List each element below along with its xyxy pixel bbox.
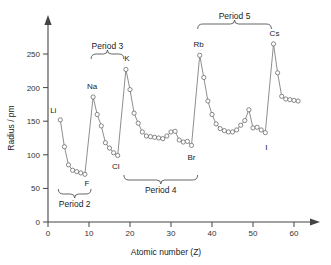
x-tick-label-10: 10 bbox=[85, 229, 94, 238]
data-point bbox=[173, 129, 177, 133]
data-point bbox=[243, 118, 247, 122]
x-tick-label-20: 20 bbox=[126, 229, 135, 238]
element-label-k: K bbox=[124, 54, 130, 63]
data-point bbox=[66, 163, 70, 167]
chart-svg: 0 50 100 150 200 250 0 10 20 30 40 50 60 bbox=[0, 0, 331, 265]
period-label-period-4: Period 4 bbox=[145, 185, 177, 195]
y-tick-labels: 0 50 100 150 200 250 bbox=[27, 50, 41, 227]
data-point bbox=[124, 67, 128, 71]
data-point bbox=[140, 130, 144, 134]
data-point bbox=[271, 42, 275, 46]
data-point bbox=[210, 112, 214, 116]
data-point bbox=[128, 88, 132, 92]
data-point bbox=[83, 172, 87, 176]
data-point bbox=[288, 98, 292, 102]
y-tick-label-0: 0 bbox=[36, 218, 41, 227]
data-point bbox=[165, 134, 169, 138]
y-tick-label-250: 250 bbox=[27, 50, 41, 59]
data-point bbox=[202, 75, 206, 79]
x-tick-label-0: 0 bbox=[46, 229, 51, 238]
x-tick-label-60: 60 bbox=[290, 229, 299, 238]
data-point bbox=[103, 141, 107, 145]
data-point bbox=[71, 168, 75, 172]
data-point bbox=[222, 129, 226, 133]
data-point bbox=[99, 124, 103, 128]
data-point bbox=[185, 139, 189, 143]
x-axis-arrowhead bbox=[310, 218, 320, 225]
data-point-markers bbox=[58, 42, 300, 177]
x-tick-labels: 0 10 20 30 40 50 60 bbox=[46, 229, 299, 238]
element-label-f: F bbox=[84, 179, 89, 188]
period-bracket bbox=[58, 189, 91, 198]
y-tick-label-100: 100 bbox=[27, 151, 41, 160]
y-axis-arrowhead bbox=[44, 15, 51, 25]
data-point bbox=[247, 108, 251, 112]
data-point bbox=[116, 153, 120, 157]
y-tick-marks bbox=[43, 54, 48, 222]
data-point bbox=[226, 130, 230, 134]
period-label-period-5: Period 5 bbox=[219, 11, 251, 21]
data-point bbox=[79, 171, 83, 175]
data-point bbox=[280, 94, 284, 98]
data-point bbox=[95, 112, 99, 116]
data-point bbox=[107, 146, 111, 150]
data-point bbox=[153, 135, 157, 139]
atomic-radius-chart: 0 50 100 150 200 250 0 10 20 30 40 50 60 bbox=[0, 0, 331, 265]
data-point bbox=[75, 170, 79, 174]
data-point bbox=[132, 111, 136, 115]
data-point bbox=[263, 131, 267, 135]
data-point bbox=[161, 137, 165, 141]
x-tick-marks bbox=[48, 222, 294, 227]
y-tick-label-200: 200 bbox=[27, 84, 41, 93]
period-label-period-3: Period 3 bbox=[92, 41, 124, 51]
element-label-i: I bbox=[265, 143, 267, 152]
element-label-cl: Cl bbox=[112, 162, 120, 171]
period-bracket bbox=[198, 20, 272, 29]
data-point bbox=[239, 123, 243, 127]
data-point bbox=[276, 71, 280, 75]
data-point bbox=[235, 128, 239, 132]
data-point bbox=[148, 135, 152, 139]
data-point bbox=[214, 122, 218, 126]
data-point bbox=[177, 138, 181, 142]
x-tick-label-40: 40 bbox=[208, 229, 217, 238]
data-point bbox=[251, 126, 255, 130]
element-point-labels: LiFNaClKBrRbICs bbox=[50, 29, 279, 188]
data-point bbox=[189, 143, 193, 147]
period-bracket-annotations: Period 2Period 3Period 4Period 5 bbox=[58, 11, 271, 209]
data-point bbox=[284, 97, 288, 101]
data-point bbox=[91, 95, 95, 99]
x-tick-label-50: 50 bbox=[249, 229, 258, 238]
data-point bbox=[112, 151, 116, 155]
data-point bbox=[157, 136, 161, 140]
element-label-cs: Cs bbox=[270, 29, 280, 38]
period-bracket bbox=[124, 175, 198, 184]
data-point bbox=[169, 130, 173, 134]
y-tick-label-50: 50 bbox=[31, 184, 40, 193]
element-label-na: Na bbox=[87, 82, 98, 91]
data-point bbox=[206, 99, 210, 103]
period-bracket bbox=[91, 50, 124, 59]
data-point bbox=[198, 53, 202, 57]
data-point bbox=[144, 134, 148, 138]
data-point bbox=[62, 145, 66, 149]
y-axis bbox=[44, 15, 51, 222]
data-point bbox=[292, 98, 296, 102]
x-axis-title: Atomic number (Z) bbox=[131, 247, 202, 257]
data-point bbox=[230, 130, 234, 134]
element-label-br: Br bbox=[188, 153, 196, 162]
data-point bbox=[255, 125, 259, 129]
element-label-rb: Rb bbox=[194, 40, 205, 49]
element-label-li: Li bbox=[50, 106, 56, 115]
y-axis-title: Radius / pm bbox=[6, 105, 16, 150]
data-series-atomic-radius bbox=[58, 42, 300, 177]
data-point bbox=[218, 126, 222, 130]
data-point bbox=[181, 140, 185, 144]
data-point bbox=[296, 99, 300, 103]
period-label-period-2: Period 2 bbox=[59, 199, 91, 209]
y-tick-label-150: 150 bbox=[27, 117, 41, 126]
data-point bbox=[136, 121, 140, 125]
data-point bbox=[58, 118, 62, 122]
data-point bbox=[259, 128, 263, 132]
x-tick-label-30: 30 bbox=[167, 229, 176, 238]
